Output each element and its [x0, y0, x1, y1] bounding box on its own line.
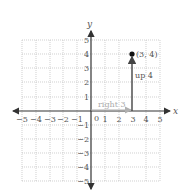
point-label: (3, 4): [136, 50, 158, 59]
svg-text:2: 2: [116, 115, 121, 124]
svg-text:1: 1: [102, 115, 107, 124]
right-move-label: right 3: [98, 100, 126, 109]
svg-text:4: 4: [143, 115, 148, 124]
svg-text:−2: −2: [57, 115, 69, 124]
svg-text:4: 4: [84, 50, 89, 59]
point-3-4: [129, 51, 134, 56]
svg-text:5: 5: [157, 115, 162, 124]
y-axis-label: y: [86, 19, 93, 29]
svg-text:−5: −5: [16, 115, 28, 124]
up-move-label: up 4: [135, 71, 153, 80]
svg-text:1: 1: [84, 93, 89, 102]
svg-text:−1: −1: [77, 121, 89, 130]
svg-text:−2: −2: [77, 135, 89, 144]
svg-text:−5: −5: [77, 177, 89, 186]
svg-text:−3: −3: [44, 115, 56, 124]
svg-text:−4: −4: [77, 163, 89, 172]
svg-text:3: 3: [130, 115, 135, 124]
svg-text:2: 2: [84, 78, 89, 87]
x-axis-label: x: [173, 106, 178, 116]
origin-label: 0: [94, 114, 99, 123]
svg-text:5: 5: [84, 36, 89, 45]
svg-text:3: 3: [84, 64, 89, 73]
svg-text:−3: −3: [77, 149, 89, 158]
svg-text:−4: −4: [30, 115, 42, 124]
x-tick-labels: −5 −4 −3 −2 −1 1 2 3 4 5: [16, 115, 162, 124]
coordinate-plane: x y −5 −4 −3 −2 −1 1 2 3 4 5 0 5 4 3 2 1…: [0, 0, 191, 191]
